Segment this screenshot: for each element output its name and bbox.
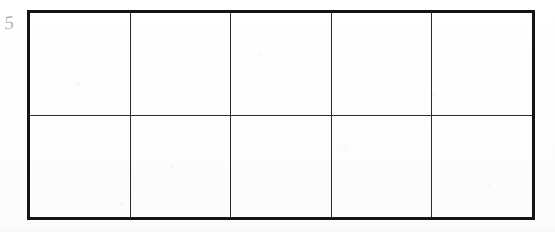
cell-text <box>432 116 532 218</box>
table-cell[interactable] <box>130 13 231 115</box>
table-cell[interactable] <box>130 116 231 218</box>
table-cell[interactable] <box>30 13 130 115</box>
cell-text <box>432 13 532 115</box>
handwritten-mark-icon: 5 <box>0 10 19 36</box>
cell-text <box>131 13 231 115</box>
table-cell[interactable] <box>230 116 331 218</box>
table-cell[interactable] <box>30 116 130 218</box>
table-row <box>30 13 532 115</box>
table-cell[interactable] <box>431 116 532 218</box>
grid-table <box>27 10 535 220</box>
table-cell[interactable] <box>331 116 432 218</box>
cell-text <box>231 13 331 115</box>
cell-text <box>30 13 130 115</box>
cell-text <box>332 13 432 115</box>
cell-text <box>231 116 331 218</box>
table-cell[interactable] <box>230 13 331 115</box>
table-row <box>30 115 532 218</box>
scan-edge-shadow <box>0 220 555 232</box>
table-cell[interactable] <box>331 13 432 115</box>
cell-text <box>131 116 231 218</box>
cell-text <box>332 116 432 218</box>
cell-text <box>30 116 130 218</box>
table-cell[interactable] <box>431 13 532 115</box>
scanned-page: 5 <box>0 0 555 232</box>
